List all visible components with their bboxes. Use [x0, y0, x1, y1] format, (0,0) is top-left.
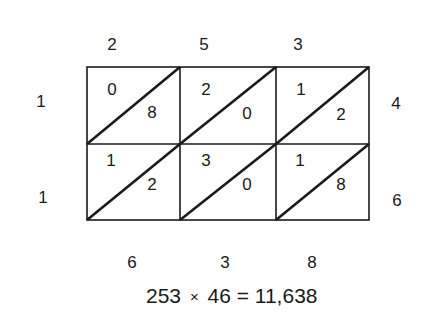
cell-diagonal — [276, 144, 369, 220]
cell-tens: 0 — [107, 80, 116, 100]
cell-tens: 1 — [296, 80, 305, 100]
cell-tens: 1 — [295, 151, 304, 171]
top-digit: 5 — [199, 35, 208, 55]
cell-ones: 8 — [147, 103, 156, 123]
right-digit: 6 — [392, 191, 401, 211]
equation: 253 × 46 = 11,638 — [146, 283, 317, 311]
cell-ones: 2 — [336, 105, 345, 125]
cell-ones: 0 — [242, 175, 251, 195]
cell-tens: 1 — [106, 151, 115, 171]
lattice-grid — [0, 0, 432, 330]
cell-ones: 8 — [336, 175, 345, 195]
cell-diagonal — [180, 67, 276, 144]
bottom-digit: 3 — [220, 253, 229, 273]
cell-ones: 0 — [242, 104, 251, 124]
top-digit: 2 — [107, 35, 116, 55]
equation-result: 11,638 — [255, 284, 318, 307]
cell-diagonal — [87, 144, 180, 220]
bottom-digit: 6 — [127, 253, 136, 273]
left-digit: 1 — [36, 92, 45, 112]
cell-ones: 2 — [147, 175, 156, 195]
cell-tens: 3 — [201, 151, 210, 171]
cell-diagonal — [276, 67, 369, 144]
equation-right: 46 — [208, 284, 231, 307]
top-digit: 3 — [293, 35, 302, 55]
right-digit: 4 — [391, 94, 400, 114]
times-operator: × — [190, 288, 199, 305]
equals-sign: = — [237, 284, 249, 307]
bottom-digit: 8 — [307, 253, 316, 273]
cell-tens: 2 — [201, 80, 210, 100]
equation-left: 253 — [146, 284, 181, 307]
cell-diagonal — [180, 144, 276, 220]
cell-diagonal — [87, 67, 180, 144]
left-digit: 1 — [38, 188, 47, 208]
